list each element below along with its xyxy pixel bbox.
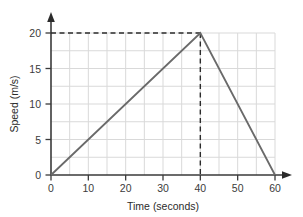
x-tick-label-50: 50	[232, 182, 244, 194]
x-tick-label-60: 60	[269, 182, 281, 194]
y-tick-label-10: 10	[29, 98, 41, 110]
y-tick-label-5: 5	[35, 134, 41, 146]
x-axis-title: Time (seconds)	[127, 200, 199, 212]
speed-time-chart: 0 5 10 15 20 0 10 20 30 40 50 60 Time (s…	[0, 0, 303, 217]
y-axis-title: Speed (m/s)	[8, 75, 20, 132]
x-tick-label-30: 30	[157, 182, 169, 194]
chart-svg: 0 5 10 15 20 0 10 20 30 40 50 60 Time (s…	[0, 0, 303, 217]
y-tick-label-15: 15	[29, 63, 41, 75]
x-tick-label-40: 40	[194, 182, 206, 194]
x-tick-label-0: 0	[48, 182, 54, 194]
y-tick-label-0: 0	[35, 169, 41, 181]
x-tick-label-10: 10	[82, 182, 94, 194]
y-tick-label-20: 20	[29, 27, 41, 39]
x-tick-label-20: 20	[120, 182, 132, 194]
